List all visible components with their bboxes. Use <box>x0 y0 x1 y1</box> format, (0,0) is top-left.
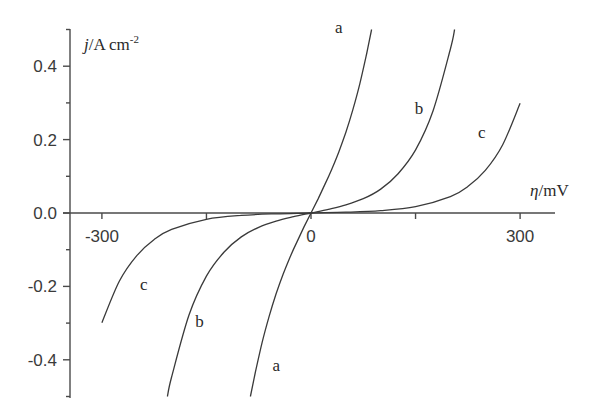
y-tick-label: -0.4 <box>28 351 57 370</box>
x-axis-unit: /mV <box>538 181 569 200</box>
x-tick-label: -300 <box>85 227 119 246</box>
polarization-chart: -3000300-0.4-0.20.00.20.4 aabbcc j/A cm-… <box>0 0 602 420</box>
x-tick-label: 0 <box>306 227 315 246</box>
y-tick-label: -0.2 <box>28 277 57 296</box>
curve-label-b: b <box>195 312 204 331</box>
x-tick-label: 300 <box>506 227 534 246</box>
y-tick-label: 0.4 <box>33 57 57 76</box>
curve-label-c: c <box>478 123 486 142</box>
y-tick-label: 0.2 <box>33 131 57 150</box>
y-axis-unit: /A cm <box>89 35 130 54</box>
y-axis-title: j/A cm-2 <box>82 33 139 54</box>
curve-label-a: a <box>272 356 280 375</box>
curve-label-c: c <box>140 275 148 294</box>
curve-label-a: a <box>335 18 343 37</box>
curve-label-b: b <box>415 99 424 118</box>
y-tick-label: 0.0 <box>33 204 57 223</box>
x-axis-title: η/mV <box>530 181 569 200</box>
curve-labels: aabbcc <box>140 18 486 375</box>
y-axis-exponent: -2 <box>130 33 139 45</box>
x-axis-symbol: η <box>530 181 538 200</box>
